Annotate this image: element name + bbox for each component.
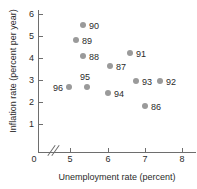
data-label-95: 95 <box>80 73 90 82</box>
data-point-91[interactable] <box>127 50 133 56</box>
data-point-89[interactable] <box>73 37 79 43</box>
data-point-93[interactable] <box>133 78 139 84</box>
data-label-88: 88 <box>89 53 99 62</box>
data-point-87[interactable] <box>107 63 113 69</box>
data-point-88[interactable] <box>80 53 86 59</box>
data-label-90: 90 <box>89 22 99 31</box>
data-point-92[interactable] <box>157 78 163 84</box>
data-label-87: 87 <box>116 63 126 72</box>
data-label-91: 91 <box>136 50 146 59</box>
data-label-92: 92 <box>166 78 176 87</box>
data-label-89: 89 <box>82 37 92 46</box>
data-point-90[interactable] <box>80 22 86 28</box>
data-point-95[interactable] <box>84 84 90 90</box>
plot-area: 90 89 88 91 87 93 92 95 96 94 86 <box>0 0 197 189</box>
data-label-94: 94 <box>114 90 124 99</box>
scatter-chart: 6 5 4 3 2 1 0 5 6 7 8 Inflation rate (pe… <box>0 0 197 189</box>
data-point-94[interactable] <box>105 90 111 96</box>
data-label-86: 86 <box>151 103 161 112</box>
data-point-86[interactable] <box>142 103 148 109</box>
data-label-93: 93 <box>142 78 152 87</box>
data-point-96[interactable] <box>66 84 72 90</box>
data-label-96: 96 <box>53 84 63 93</box>
